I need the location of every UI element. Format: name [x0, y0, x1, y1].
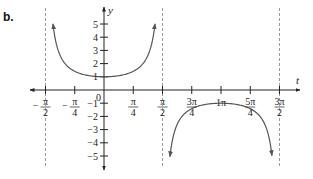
y-tick-label: 2: [93, 58, 98, 69]
y-tick-label: −2: [87, 111, 98, 122]
svg-text:4: 4: [189, 107, 194, 118]
svg-text:4: 4: [248, 107, 253, 118]
y-tick-label: 3: [93, 45, 98, 56]
x-tick-label: 5π4: [245, 96, 255, 118]
y-tick-label: 1: [93, 71, 98, 82]
svg-text:4: 4: [72, 107, 77, 118]
x-tick-label: π4: [128, 96, 138, 118]
panel-label: b.: [3, 10, 14, 24]
svg-text:π: π: [43, 96, 48, 107]
svg-text:2: 2: [43, 107, 48, 118]
svg-text:2: 2: [277, 107, 282, 118]
tick-labels: ty054321−1−2−3−4−5π2−π4−π4π23π41π5π43π2: [33, 4, 300, 162]
svg-text:−: −: [62, 100, 68, 111]
y-tick-label: 4: [93, 32, 98, 43]
x-tick-label: 1π: [216, 97, 226, 108]
y-tick-label: −4: [87, 137, 98, 148]
svg-text:π: π: [72, 96, 77, 107]
y-tick-label: −1: [87, 98, 98, 109]
secant-graph: b. ty054321−1−2−3−4−5π2−π4−π4π23π41π5π43…: [0, 0, 313, 179]
svg-text:3π: 3π: [274, 96, 284, 107]
x-tick-label: 3π2: [274, 96, 284, 118]
x-axis-label: t: [296, 74, 300, 86]
y-tick-label: −5: [87, 151, 98, 162]
svg-text:2: 2: [160, 107, 165, 118]
x-tick-label: π2−: [33, 96, 51, 118]
x-tick-label: π4−: [62, 96, 80, 118]
svg-text:π: π: [160, 96, 165, 107]
svg-text:5π: 5π: [245, 96, 255, 107]
svg-text:−: −: [33, 100, 39, 111]
svg-text:4: 4: [131, 107, 136, 118]
secant-curve-branch: [170, 103, 272, 157]
y-axis-label: y: [107, 4, 113, 16]
svg-text:3π: 3π: [187, 96, 197, 107]
y-tick-label: 5: [93, 19, 98, 30]
axes: [30, 7, 300, 170]
x-tick-label: π2: [158, 96, 168, 118]
x-tick-label: 3π4: [187, 96, 197, 118]
svg-text:π: π: [131, 96, 136, 107]
y-tick-label: −3: [87, 124, 98, 135]
